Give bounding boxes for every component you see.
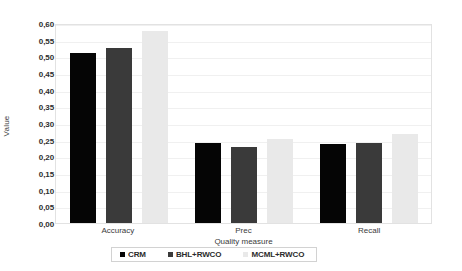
legend-item[interactable]: BHL+RWCO	[168, 250, 222, 259]
x-axis-tick-label: Recall	[306, 226, 432, 235]
bar	[106, 48, 132, 223]
y-axis-tick-label: 0,30	[24, 120, 54, 129]
bar-group	[56, 25, 181, 223]
legend-label: CRM	[128, 250, 146, 259]
legend-item[interactable]: MCML+RWCO	[243, 250, 304, 259]
y-axis-tick-label: 0,60	[24, 20, 54, 29]
bar	[356, 143, 382, 223]
x-axis-tick-label: Accuracy	[55, 226, 181, 235]
y-axis-tick-label: 0,50	[24, 53, 54, 62]
legend-label: BHL+RWCO	[176, 250, 222, 259]
bar	[142, 31, 168, 223]
plot-area	[55, 24, 432, 224]
y-axis-tick-label: 0,55	[24, 36, 54, 45]
bar-groups	[56, 25, 431, 223]
y-axis-title: Value	[2, 96, 11, 156]
bar-group	[181, 25, 306, 223]
legend-label: MCML+RWCO	[251, 250, 304, 259]
y-axis-tick-label: 0,40	[24, 86, 54, 95]
y-axis-tick-label: 0,25	[24, 136, 54, 145]
y-axis-tick-label: 0,10	[24, 186, 54, 195]
y-axis-tick-label: 0,45	[24, 70, 54, 79]
legend-swatch-icon	[243, 252, 248, 257]
y-axis-tick-label: 0,05	[24, 203, 54, 212]
bar	[320, 144, 346, 223]
legend-swatch-icon	[168, 252, 173, 257]
x-axis-tick-labels: AccuracyPrecRecall	[55, 226, 432, 235]
y-axis-tick-label: 0,15	[24, 170, 54, 179]
legend: CRMBHL+RWCOMCML+RWCO	[111, 247, 317, 262]
x-axis-tick-label: Prec	[181, 226, 307, 235]
y-axis-tick-label: 0,00	[24, 220, 54, 229]
bar	[267, 139, 293, 223]
bar	[231, 147, 257, 223]
legend-item[interactable]: CRM	[120, 250, 146, 259]
bar-group	[306, 25, 431, 223]
x-axis-title: Quality measure	[55, 237, 432, 246]
bar	[70, 53, 96, 223]
bar-chart: Value 0,000,050,100,150,200,250,300,350,…	[0, 0, 462, 271]
bar	[195, 143, 221, 223]
y-axis-tick-label: 0,35	[24, 103, 54, 112]
legend-swatch-icon	[120, 252, 125, 257]
y-axis-tick-labels: 0,000,050,100,150,200,250,300,350,400,45…	[24, 24, 54, 224]
y-axis-tick-label: 0,20	[24, 153, 54, 162]
bar	[392, 134, 418, 223]
